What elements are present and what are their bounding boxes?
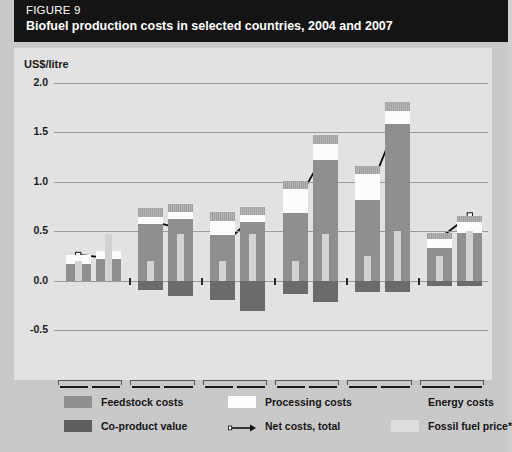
bar-segment-energy [168, 204, 193, 213]
bar-segment-energy [355, 166, 380, 174]
bar-segment-processing [168, 212, 193, 219]
bar-segment-processing [427, 239, 452, 248]
bar-segment-coproduct [457, 281, 482, 286]
coproduct-swatch-icon [64, 420, 92, 432]
y-axis-tick-label: 1.5 [14, 125, 48, 137]
bar-column [313, 48, 338, 380]
bar-segment-energy [427, 233, 452, 239]
fossil-fuel-price-marker [75, 261, 82, 281]
feedstock-swatch-icon [64, 396, 92, 408]
fossil-fuel-price-marker [105, 234, 112, 280]
bar-segment-coproduct [355, 281, 380, 293]
bar-segment-processing [210, 221, 235, 235]
fossil-swatch-icon [391, 420, 419, 432]
y-axis-tick-label: 1.0 [14, 175, 48, 187]
fossil-fuel-price-marker [466, 231, 473, 280]
bar-column [138, 48, 163, 380]
y-axis-tick-label: -0.5 [14, 323, 48, 335]
y-axis-tick-label: 2.0 [14, 76, 48, 88]
legend-label-fossil: Fossil fuel price* [428, 420, 512, 432]
fossil-fuel-price-marker [249, 234, 256, 280]
bar-segment-energy [313, 135, 338, 144]
bar-column [240, 48, 265, 380]
fossil-fuel-price-marker [436, 256, 443, 281]
legend-label-feedstock: Feedstock costs [101, 396, 183, 408]
fossil-fuel-price-marker [364, 256, 371, 281]
bar-segment-coproduct [138, 281, 163, 291]
x-axis-tick [129, 278, 131, 285]
x-axis-tick [201, 278, 203, 285]
group-bracket [420, 380, 484, 385]
bar-segment-processing [385, 111, 410, 125]
bar-segment-energy [283, 181, 308, 189]
bar-column [210, 48, 235, 380]
bar-segment-energy [210, 212, 235, 221]
x-axis-tick [274, 278, 276, 285]
group-bracket [347, 380, 411, 385]
bar-segment-coproduct [427, 281, 452, 286]
chart-legend: Feedstock costs Co-product value Process… [14, 388, 508, 452]
legend-label-energy: Energy costs [428, 396, 494, 408]
bar-segment-coproduct [385, 281, 410, 293]
bar-segment-processing [240, 215, 265, 222]
figure-number: FIGURE 9 [26, 3, 508, 17]
y-axis-tick-label: 0.0 [14, 274, 48, 286]
bar-segment-energy [138, 208, 163, 217]
bar-segment-processing [283, 189, 308, 214]
y-axis-tick-label: 0.5 [14, 224, 48, 236]
legend-item-net-costs: Net costs, total [228, 420, 340, 432]
legend-item-feedstock: Feedstock costs [64, 396, 183, 408]
x-axis-tick [346, 278, 348, 285]
fossil-fuel-price-marker [177, 234, 184, 280]
plot-area: 2.01.51.00.50.0-0.5 [14, 48, 492, 380]
bar-column [385, 48, 410, 380]
legend-item-coproduct: Co-product value [64, 420, 187, 432]
group-bracket [130, 380, 194, 385]
bar-segment-energy [240, 207, 265, 216]
legend-label-processing: Processing costs [265, 396, 352, 408]
fossil-fuel-price-marker [292, 261, 299, 281]
fossil-fuel-price-marker [394, 231, 401, 280]
bar-segment-processing [313, 144, 338, 160]
bar-segment-coproduct [283, 281, 308, 295]
legend-label-net-costs: Net costs, total [265, 420, 340, 432]
bar-segment-coproduct [210, 281, 235, 301]
group-bracket [58, 380, 122, 385]
legend-item-fossil: Fossil fuel price* [391, 420, 512, 432]
legend-item-processing: Processing costs [228, 396, 352, 408]
fossil-fuel-price-marker [219, 261, 226, 281]
bar-segment-coproduct [240, 281, 265, 312]
bar-column [168, 48, 193, 380]
processing-swatch-icon [228, 396, 256, 408]
bar-column [427, 48, 452, 380]
bar-column [96, 48, 121, 380]
page-title: Biofuel production costs in selected cou… [26, 18, 508, 34]
group-bracket [203, 380, 267, 385]
bar-column [283, 48, 308, 380]
legend-label-coproduct: Co-product value [101, 420, 187, 432]
group-bracket [275, 380, 339, 385]
fossil-fuel-price-marker [147, 261, 154, 281]
legend-item-energy: Energy costs [391, 396, 494, 408]
bar-segment-energy [457, 216, 482, 222]
figure-header: FIGURE 9 Biofuel production costs in sel… [14, 0, 508, 42]
bar-segment-processing [355, 174, 380, 200]
net-cost-arrow-icon [228, 420, 256, 432]
x-axis-tick [418, 278, 420, 285]
bar-segment-coproduct [313, 281, 338, 303]
chart-panel: US$/litre 2.01.51.00.50.0-0.5 [14, 48, 492, 380]
bar-column [355, 48, 380, 380]
bar-segment-processing [138, 217, 163, 224]
bar-segment-energy [385, 102, 410, 111]
bar-column [457, 48, 482, 380]
bar-column [66, 48, 91, 380]
bar-segment-coproduct [168, 281, 193, 297]
fossil-fuel-price-marker [322, 234, 329, 280]
